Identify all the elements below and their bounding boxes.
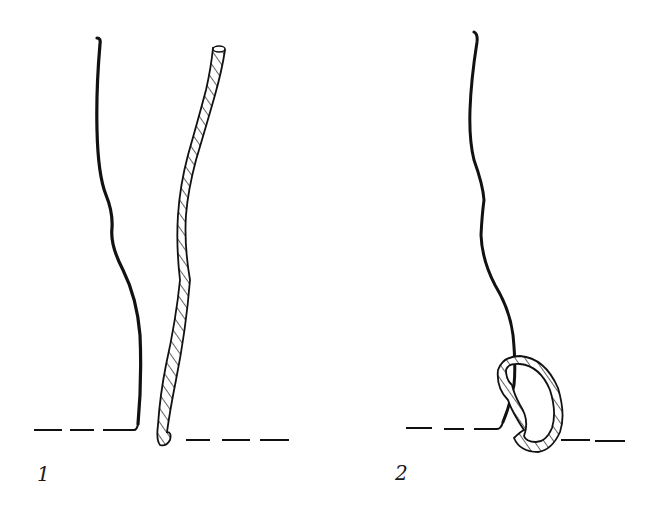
diagram-artwork <box>0 0 659 516</box>
diagram-canvas: 1 2 <box>0 0 659 516</box>
figure-2 <box>406 32 625 452</box>
twisted-loop <box>498 356 563 452</box>
baseline-right-dashes-2 <box>561 440 625 441</box>
figure-2-label: 2 <box>395 463 408 483</box>
baseline-left-dashes <box>34 424 138 430</box>
figure-1 <box>34 38 289 445</box>
fiber-tip <box>213 46 225 52</box>
solid-fiber <box>97 38 141 424</box>
figure-1-label: 1 <box>37 464 50 484</box>
baseline-left-dashes-2 <box>406 422 503 429</box>
twisted-fiber <box>157 48 225 445</box>
